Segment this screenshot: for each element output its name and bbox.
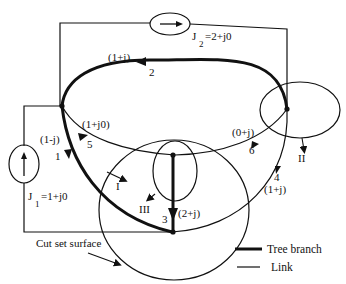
branch-4-impedance: (1+j)	[264, 183, 286, 196]
annotation-arrow-icon	[88, 253, 118, 264]
branch-3-arrow-icon	[168, 208, 178, 221]
j1-label-main: J	[28, 190, 33, 202]
legend-tree-label: Tree branch	[267, 243, 322, 255]
branch-4-number: 4	[274, 171, 280, 183]
branch-5-link	[62, 106, 175, 155]
branch-2-number: 2	[149, 66, 155, 78]
cutset-i-label: I	[116, 180, 120, 192]
node-right	[284, 106, 289, 111]
arrow-right-icon	[176, 21, 183, 27]
j2-label-value: =2+j0	[205, 30, 232, 42]
branch-1-impedance: (1-j)	[40, 133, 60, 146]
branch-1-number: 1	[55, 150, 61, 162]
cutset-iii-label: III	[139, 203, 150, 215]
source-j1	[9, 145, 39, 183]
cutset-ii-label: II	[298, 152, 306, 164]
source-j2	[150, 13, 190, 35]
branch-2-arrow-icon	[136, 57, 146, 66]
cutset-surface-annotation: Cut set surface	[36, 237, 101, 249]
branch-2-impedance: (1+j)	[108, 51, 130, 64]
branch-2-tree	[62, 59, 287, 109]
j2-label-sub: 2	[199, 39, 204, 49]
branch-6-impedance: (0+j)	[232, 126, 254, 139]
branch-6-link	[175, 109, 287, 155]
arrow-up-icon	[21, 152, 27, 159]
branch-1-tree	[62, 106, 172, 232]
cutset-iii-surface	[153, 141, 197, 201]
branch-3-impedance: (2+j)	[178, 207, 200, 220]
j1-label-value: =1+j0	[41, 190, 68, 202]
node-middle	[170, 152, 175, 157]
j1-label-sub: 1	[35, 199, 40, 209]
j2-label-main: J	[192, 30, 197, 42]
branch-1-arrow-icon	[64, 149, 72, 159]
branch-3-number: 3	[162, 213, 168, 225]
branch-6-number: 6	[249, 144, 255, 156]
node-bottom	[170, 229, 175, 234]
legend: Tree branch Link	[235, 243, 322, 273]
branch-5-number: 5	[87, 138, 93, 150]
circuit-cutset-diagram: J 2 =2+j0 J 1 =1+j0 (1+j) 2 (1-j) 1 (1+j…	[0, 0, 346, 284]
legend-link-label: Link	[271, 261, 293, 273]
cutset-ii-surface	[260, 82, 340, 138]
branch-5-impedance: (1+j0)	[82, 118, 110, 131]
node-left	[59, 103, 64, 108]
